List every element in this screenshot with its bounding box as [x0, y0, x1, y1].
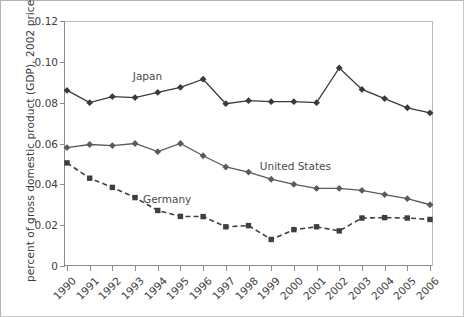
x-tick-label-text: 1993 — [119, 274, 146, 301]
x-tick-label: 2002 — [324, 273, 351, 300]
data-point — [382, 215, 387, 220]
data-point — [178, 214, 183, 219]
y-tick-label: 0.04 — [35, 178, 58, 190]
y-tick-label: 0.06 — [35, 138, 58, 150]
data-point — [222, 164, 229, 171]
data-point — [177, 140, 184, 147]
data-point — [132, 195, 137, 200]
x-tick-mark — [407, 266, 408, 271]
data-point — [245, 169, 252, 176]
x-tick-mark — [294, 266, 295, 271]
x-tick-mark — [67, 266, 68, 271]
data-point — [405, 215, 410, 220]
y-tick-label: 0.12 — [35, 15, 58, 27]
series-label-united-states: United States — [260, 160, 331, 172]
x-tick-label-text: 2006 — [414, 274, 441, 301]
data-point — [381, 95, 388, 102]
y-tick-label: 0.10 — [35, 56, 58, 68]
data-point — [200, 214, 205, 219]
series-label-japan: Japan — [133, 70, 162, 82]
data-point — [313, 99, 320, 106]
x-tick-label: 1999 — [256, 273, 283, 300]
chart-figure: percent of gross domestic product (GDP),… — [0, 0, 464, 317]
data-point — [246, 223, 251, 228]
data-point — [154, 148, 161, 155]
x-tick-label: 1993 — [120, 273, 147, 300]
data-point — [64, 87, 71, 94]
data-point — [64, 160, 69, 165]
data-point — [154, 89, 161, 96]
data-point — [110, 185, 115, 190]
x-tick-label-text: 2000 — [278, 274, 305, 301]
x-tick-label: 2000 — [279, 273, 306, 300]
x-tick-mark — [430, 266, 431, 271]
data-point — [290, 181, 297, 188]
x-tick-label: 1997 — [211, 273, 238, 300]
x-tick-mark — [180, 266, 181, 271]
x-tick-mark — [203, 266, 204, 271]
x-tick-label-text: 1997 — [209, 274, 236, 301]
data-point — [268, 98, 275, 105]
data-point — [223, 224, 228, 229]
series-label-germany: Germany — [143, 193, 191, 205]
data-point — [427, 109, 434, 116]
data-point — [427, 201, 434, 208]
x-tick-label-text: 1990 — [51, 274, 78, 301]
x-tick-label: 1990 — [52, 273, 79, 300]
data-point — [87, 176, 92, 181]
x-tick-mark — [385, 266, 386, 271]
data-point — [359, 215, 364, 220]
x-tick-mark — [90, 266, 91, 271]
data-point — [245, 97, 252, 104]
x-tick-mark — [135, 266, 136, 271]
x-tick-label-text: 1994 — [141, 274, 168, 301]
data-point — [290, 98, 297, 105]
x-tick-mark — [112, 266, 113, 271]
data-point — [381, 191, 388, 198]
data-point — [313, 185, 320, 192]
x-tick-label-text: 2003 — [346, 274, 373, 301]
data-point — [200, 152, 207, 159]
x-tick-label: 2003 — [347, 273, 374, 300]
data-point — [427, 217, 432, 222]
data-point — [64, 144, 71, 151]
data-point — [86, 99, 93, 106]
x-tick-mark — [271, 266, 272, 271]
data-point — [337, 228, 342, 233]
data-point — [132, 94, 139, 101]
y-tick-mark — [60, 266, 65, 267]
x-tick-label: 2006 — [415, 273, 442, 300]
plot-area: 00.020.040.060.080.100.12 19901991199219… — [64, 21, 433, 266]
data-point — [268, 237, 273, 242]
x-tick-label: 1996 — [188, 273, 215, 300]
data-point — [109, 142, 116, 149]
data-point — [177, 84, 184, 91]
data-point — [404, 195, 411, 202]
data-point — [291, 227, 296, 232]
data-point — [268, 176, 275, 183]
data-point — [86, 141, 93, 148]
y-tick-label: 0.02 — [35, 219, 58, 231]
data-point — [155, 208, 160, 213]
x-tick-mark — [317, 266, 318, 271]
data-point — [109, 93, 116, 100]
series-lines — [64, 21, 433, 266]
series-line-japan — [67, 68, 430, 113]
y-tick-label: 0.08 — [35, 97, 58, 109]
x-tick-mark — [249, 266, 250, 271]
x-tick-mark — [362, 266, 363, 271]
x-tick-mark — [226, 266, 227, 271]
x-tick-mark — [158, 266, 159, 271]
data-point — [359, 187, 366, 194]
data-point — [404, 104, 411, 111]
x-tick-mark — [339, 266, 340, 271]
x-tick-label-text: 1996 — [187, 274, 214, 301]
data-point — [314, 224, 319, 229]
data-point — [336, 185, 343, 192]
data-point — [132, 140, 139, 147]
y-tick-label: 0 — [51, 260, 58, 272]
